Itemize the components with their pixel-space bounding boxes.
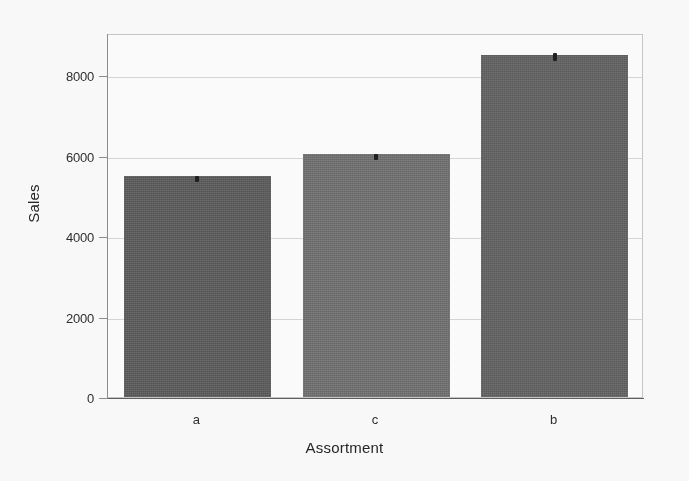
y-axis-tick [99,398,108,399]
y-axis-title: Sales [25,159,42,249]
x-axis-line [107,398,644,399]
y-axis-tick-label: 8000 [66,69,94,84]
x-axis-tick-label: a [193,412,200,427]
x-axis-tick-label: b [550,412,557,427]
x-axis-title: Assortment [0,439,689,456]
y-axis-tick [99,237,108,238]
y-axis-tick [99,318,108,319]
error-bar-a [195,176,199,182]
y-axis-tick-label: 6000 [66,149,94,164]
y-axis-tick-label: 0 [87,391,94,406]
error-bar-c [374,154,378,160]
x-axis-tick-label: c [372,412,379,427]
y-axis-tick-label: 2000 [66,310,94,325]
error-bar-b [553,53,557,60]
y-axis-tick [99,76,108,77]
bar-b [481,55,628,397]
chart-figure: 02000400060008000 acb Sales Assortment [0,0,689,481]
y-axis-tick [99,157,108,158]
bar-a [124,176,271,397]
y-axis-tick-label: 4000 [66,230,94,245]
plot-area [107,34,643,398]
bar-c [303,154,450,397]
y-axis-line [107,34,108,399]
y-axis-tick-labels: 02000400060008000 [40,0,94,481]
